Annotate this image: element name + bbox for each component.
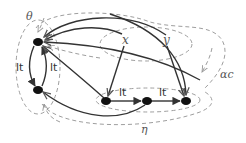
- dashed-arrow-eta: [44, 104, 60, 122]
- edge-label-c-to-d: lt: [119, 86, 127, 99]
- edge-label-d-to-e: lt: [159, 86, 167, 99]
- xy-region: [100, 27, 192, 61]
- variable-x-label: x: [122, 33, 129, 47]
- eta-label: η: [141, 123, 148, 136]
- edge-label-b-to-a: lt: [50, 61, 58, 74]
- dashed-arrow-alpha: [202, 48, 212, 72]
- edge-a-to-b: [30, 46, 35, 86]
- edge-d-to-b: [43, 92, 145, 116]
- node-c: [101, 97, 111, 105]
- edge-label-a-to-b: lt: [16, 61, 24, 74]
- node-b: [33, 86, 43, 94]
- edge-x-to-a: [45, 28, 122, 40]
- node-a: [33, 38, 43, 46]
- edge-b-to-a: [42, 47, 47, 86]
- node-d: [142, 97, 152, 105]
- alpha-c-label: αc: [220, 68, 234, 81]
- theta-label: θ: [26, 10, 33, 23]
- diagram-canvas: x y θ αc η lt lt lt lt: [0, 0, 246, 143]
- dashed-regions: [16, 13, 225, 125]
- variable-y-label: y: [162, 33, 170, 47]
- node-e: [181, 97, 191, 105]
